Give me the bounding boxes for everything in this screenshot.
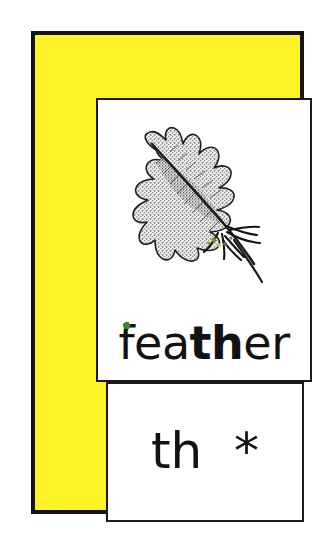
- word-segment-digraph: th: [190, 316, 244, 370]
- flashcard-yellow-frame: feather th *: [31, 31, 304, 514]
- grapheme-panel: th *: [106, 382, 304, 522]
- feather-icon: [126, 114, 276, 299]
- grapheme-label: th *: [108, 426, 302, 476]
- word-label: feather: [98, 320, 310, 366]
- picture-panel: feather: [96, 98, 312, 382]
- word-segment-coda: er: [243, 316, 289, 370]
- flashcard-root: feather th *: [0, 0, 335, 548]
